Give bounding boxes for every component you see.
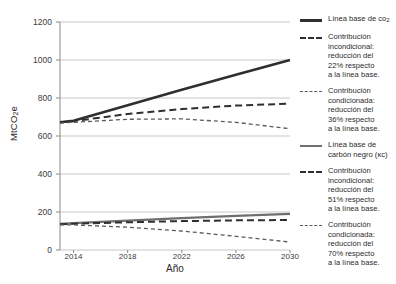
series-line-0 <box>60 60 290 122</box>
legend-item-label: Contribución condicionada: reducción del… <box>328 220 380 267</box>
legend-swatch-solid-icon <box>300 142 322 151</box>
legend-swatch-solid-thick-icon <box>300 16 322 25</box>
legend-item[interactable]: Contribución condicionada: reducción del… <box>300 220 396 267</box>
legend-swatch-dash-icon <box>300 34 322 43</box>
series-line-5 <box>60 225 290 242</box>
legend-item-label: Línea base de carbón negro (ᴋᴄ) <box>328 140 388 159</box>
legend-item[interactable]: Contribución condicionada: reducción del… <box>300 86 396 133</box>
y-tick-label: 1200 <box>16 18 52 27</box>
x-tick-label: 2026 <box>216 252 256 261</box>
legend-item[interactable]: Línea base de carbón negro (ᴋᴄ) <box>300 140 396 159</box>
legend-item-label: Contribución incondicional: reducción de… <box>328 166 380 213</box>
x-axis-label: Año <box>60 263 290 274</box>
y-tick-label: 1000 <box>16 56 52 65</box>
y-tick-label: 800 <box>16 94 52 103</box>
legend-item-label: Contribución condicionada: reducción del… <box>328 86 380 133</box>
legend-item-label: Línea base de co2 <box>328 14 390 25</box>
legend-item[interactable]: Contribución incondicional: reducción de… <box>300 166 396 213</box>
y-tick-label: 400 <box>16 170 52 179</box>
y-tick-label: 600 <box>16 132 52 141</box>
legend-subscript: 2 <box>386 17 389 23</box>
legend-item[interactable]: Línea base de co2 <box>300 14 396 25</box>
y-tick-marks <box>56 22 60 250</box>
chart-figure: MtCO2e 120010008006004002000 20142018202… <box>0 0 396 284</box>
legend-swatch-dash-small-icon <box>300 88 322 97</box>
y-tick-label: 200 <box>16 208 52 217</box>
legend-item[interactable]: Contribución incondicional: reducción de… <box>300 32 396 79</box>
x-tick-label: 2022 <box>162 252 202 261</box>
chart-legend: Línea base de co2Contribución incondicio… <box>300 14 396 274</box>
x-tick-label: 2018 <box>108 252 148 261</box>
series-line-2 <box>60 119 290 129</box>
x-tick-label: 2014 <box>54 252 94 261</box>
legend-item-label: Contribución incondicional: reducción de… <box>328 32 380 79</box>
y-tick-label: 0 <box>16 246 52 255</box>
data-series-group <box>60 60 290 242</box>
legend-swatch-dash-icon <box>300 168 322 177</box>
legend-swatch-dash-small-icon <box>300 222 322 231</box>
